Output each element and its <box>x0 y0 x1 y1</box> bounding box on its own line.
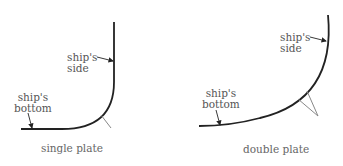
single-side-label: ship's side <box>67 52 98 74</box>
double-side-label: ship's side <box>280 32 311 54</box>
label-line: side <box>280 43 311 54</box>
single-plate-caption: single plate <box>41 142 103 154</box>
double-bottom-arrow <box>216 110 220 125</box>
double-bottom-label: ship's bottom <box>202 88 240 110</box>
double-side-arrow <box>310 37 326 41</box>
label-line: bottom <box>14 103 52 114</box>
label-line: bottom <box>202 99 240 110</box>
single-bottom-label: ship's bottom <box>14 92 52 114</box>
single-side-arrow <box>97 57 113 61</box>
single-plate-bracket <box>101 115 111 128</box>
double-plate-caption: double plate <box>243 143 309 155</box>
label-line: side <box>67 63 98 74</box>
single-bottom-arrow <box>28 113 32 128</box>
double-plate-bracket <box>298 91 318 116</box>
